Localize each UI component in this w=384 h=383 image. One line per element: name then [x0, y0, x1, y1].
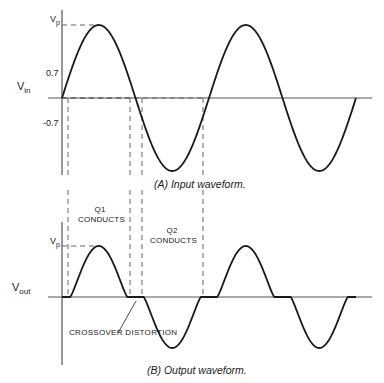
vin-subscript: in — [24, 86, 30, 95]
q2-conducts-text: CONDUCTS — [150, 236, 194, 246]
vout-subscript: out — [19, 287, 30, 296]
output-y-axis-label: Vout — [12, 281, 30, 296]
q2-conducts-label: Q2 CONDUCTS — [150, 226, 194, 246]
input-pos-07-tick-label: 0.7 — [46, 68, 59, 78]
vp-subscript: p — [56, 241, 60, 248]
input-vp-tick-label: Vp — [50, 14, 60, 26]
output-waveform-caption: (B) Output waveform. — [147, 364, 247, 376]
q1-conducts-text: CONDUCTS — [78, 215, 122, 225]
output-vp-tick-label: Vp — [50, 236, 60, 248]
q1-text: Q1 — [78, 205, 122, 215]
input-neg-07-tick-label: -0.7 — [43, 118, 59, 128]
input-waveform-caption: (A) Input waveform. — [154, 178, 246, 190]
input-waveform-plot — [48, 10, 372, 178]
input-guide-lines — [62, 25, 203, 178]
crossover-distortion-label: CROSSOVER DISTORTION — [69, 328, 177, 337]
crossover-distortion-diagram — [0, 0, 384, 383]
input-y-axis-label: Vin — [17, 80, 31, 95]
q2-text: Q2 — [150, 226, 194, 236]
vp-subscript: p — [56, 19, 60, 26]
q1-conducts-label: Q1 CONDUCTS — [78, 205, 122, 225]
